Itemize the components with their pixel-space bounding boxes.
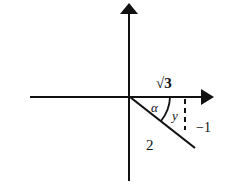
diagram-canvas: √3 α y −1 2 <box>0 0 234 187</box>
label-minus-one: −1 <box>196 120 211 135</box>
y-axis-arrow-icon <box>120 3 138 14</box>
terminal-ray <box>130 97 195 148</box>
label-alpha: α <box>151 100 159 115</box>
label-sqrt3: √3 <box>156 75 172 91</box>
label-y: y <box>170 108 178 123</box>
label-two: 2 <box>146 137 154 153</box>
x-axis-arrow-icon <box>201 89 214 105</box>
angle-arc <box>161 97 170 121</box>
coordinate-diagram: √3 α y −1 2 <box>0 0 234 187</box>
